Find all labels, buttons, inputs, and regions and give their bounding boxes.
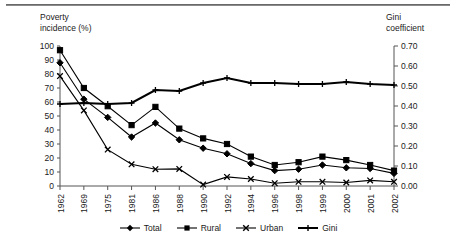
- legend-item-gini[interactable]: Gini: [297, 223, 337, 233]
- legend-marker-square-icon: [176, 223, 198, 233]
- x-axis-tick-label: 1996: [270, 194, 280, 213]
- left-axis-tick-label: 60: [45, 97, 55, 107]
- right-axis-tick-label: 0.40: [401, 101, 418, 111]
- legend-label: Urban: [260, 223, 283, 233]
- data-point-marker: [367, 81, 373, 87]
- data-point-marker: [153, 104, 158, 109]
- right-axis-tick-label: 0.20: [401, 141, 418, 151]
- data-point-marker: [248, 154, 253, 159]
- data-point-marker: [105, 147, 111, 153]
- legend-item-total[interactable]: Total: [119, 223, 162, 233]
- data-point-marker: [296, 81, 302, 87]
- right-axis-tick-label: 0.30: [401, 121, 418, 131]
- data-point-marker: [391, 82, 397, 88]
- x-axis-tick-label: 1998: [294, 194, 304, 213]
- legend-marker-x-icon: [235, 223, 257, 233]
- left-axis-tick-label: 90: [45, 55, 55, 65]
- left-axis-tick-label: 20: [45, 153, 55, 163]
- legend-marker-glyph: [184, 225, 189, 230]
- data-point-marker: [248, 80, 254, 86]
- data-point-marker: [176, 88, 182, 94]
- x-axis-tick-label: 1988: [175, 194, 185, 213]
- x-axis-tick-label: 1999: [318, 194, 328, 213]
- data-point-marker: [319, 81, 325, 87]
- data-point-marker: [81, 108, 87, 114]
- plot-area: 10090807060504030201000.700.600.500.400.…: [0, 0, 456, 246]
- data-point-marker: [57, 60, 63, 66]
- left-axis-tick-label: 100: [40, 41, 54, 51]
- legend-label: Gini: [322, 223, 337, 233]
- data-point-marker: [81, 85, 86, 90]
- data-point-marker: [129, 123, 134, 128]
- x-axis-tick-label: 2002: [390, 194, 400, 213]
- legend-item-rural[interactable]: Rural: [176, 223, 221, 233]
- x-axis-tick-label: 1992: [223, 194, 233, 213]
- x-axis-tick-label: 1975: [103, 194, 113, 213]
- right-axis-tick-label: 0.60: [401, 61, 418, 71]
- data-point-marker: [177, 126, 182, 131]
- x-axis-tick-label: 1986: [151, 194, 161, 213]
- data-point-marker: [224, 75, 230, 81]
- data-point-marker: [248, 160, 254, 166]
- data-point-marker: [296, 160, 301, 165]
- x-axis-tick-label: 1969: [79, 194, 89, 213]
- data-point-marker: [319, 162, 325, 168]
- legend-marker-glyph: [127, 225, 133, 231]
- left-axis-tick-label: 10: [45, 167, 55, 177]
- data-point-marker: [224, 141, 229, 146]
- x-axis-tick-label: 1962: [56, 194, 66, 213]
- x-axis-tick-label: 2001: [366, 194, 376, 213]
- right-axis-tick-label: 0.70: [401, 41, 418, 51]
- data-point-marker: [344, 158, 349, 163]
- right-axis-tick-label: 0.00: [401, 181, 418, 191]
- data-point-marker: [272, 162, 277, 167]
- legend-marker-glyph: [305, 225, 311, 231]
- left-axis-tick-label: 70: [45, 83, 55, 93]
- left-axis-tick-label: 30: [45, 139, 55, 149]
- x-axis-tick-label: 1981: [127, 194, 137, 213]
- data-point-marker: [57, 48, 62, 53]
- data-point-marker: [343, 165, 349, 171]
- data-point-marker: [295, 166, 301, 172]
- x-axis-tick-label: 1994: [246, 194, 256, 213]
- data-point-marker: [320, 154, 325, 159]
- legend-marker-diamond-icon: [119, 223, 141, 233]
- x-axis-tick-label: 2000: [342, 194, 352, 213]
- chart-legend: TotalRuralUrbanGini: [0, 219, 456, 237]
- series-gini: [57, 75, 397, 107]
- legend-label: Rural: [201, 223, 221, 233]
- left-axis-tick-label: 0: [49, 181, 54, 191]
- legend-label: Total: [144, 223, 162, 233]
- data-point-marker: [368, 162, 373, 167]
- left-axis-tick-label: 40: [45, 125, 55, 135]
- data-point-marker: [200, 145, 206, 151]
- right-axis-tick-label: 0.10: [401, 161, 418, 171]
- legend-marker-plus-icon: [297, 223, 319, 233]
- left-axis-tick-label: 80: [45, 69, 55, 79]
- data-point-marker: [272, 80, 278, 86]
- poverty-gini-line-chart: Poverty incidence (%) Gini coefficient 1…: [0, 0, 456, 246]
- data-point-marker: [391, 168, 396, 173]
- data-point-marker: [201, 136, 206, 141]
- data-point-marker: [343, 79, 349, 85]
- data-point-marker: [272, 167, 278, 173]
- right-axis-tick-label: 0.50: [401, 81, 418, 91]
- legend-item-urban[interactable]: Urban: [235, 223, 283, 233]
- data-point-marker: [224, 151, 230, 157]
- data-point-marker: [200, 80, 206, 86]
- chart-canvas: 10090807060504030201000.700.600.500.400.…: [0, 0, 456, 246]
- left-axis-tick-label: 50: [45, 111, 55, 121]
- x-axis-tick-label: 1990: [199, 194, 209, 213]
